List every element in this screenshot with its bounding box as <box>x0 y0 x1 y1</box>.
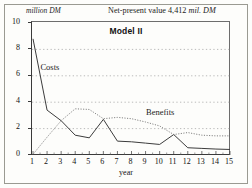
series-layer <box>33 39 230 155</box>
x-tick-label: 5 <box>81 157 95 166</box>
y-tick-label: 2 <box>2 122 20 131</box>
y-tick-label: 10 <box>2 17 20 26</box>
x-tick-label: 15 <box>222 157 236 166</box>
y-tick-label: 0 <box>2 149 20 158</box>
series-line-benefits <box>33 109 230 155</box>
y-tick-mark <box>28 75 31 76</box>
x-tick-label: 2 <box>39 157 53 166</box>
y-tick-mark <box>28 101 31 102</box>
x-tick-label: 14 <box>208 157 222 166</box>
x-tick-label: 4 <box>67 157 81 166</box>
minor-x-ticks <box>33 151 230 155</box>
costs-series-label: Costs <box>40 62 59 72</box>
y-tick-label: 8 <box>2 43 20 52</box>
y-tick-mark <box>28 128 31 129</box>
y-axis-unit-label: million DM <box>26 6 61 15</box>
plot-area <box>31 21 230 155</box>
y-tick-mark <box>28 22 31 23</box>
x-tick-label: 3 <box>53 157 67 166</box>
net-present-value-title: Net-present value 4,412 mil. DM <box>108 6 216 15</box>
x-tick-label: 6 <box>95 157 109 166</box>
benefits-series-label: Benefits <box>146 107 174 117</box>
npv-unit: mil. DM <box>188 6 215 15</box>
x-tick-label: 9 <box>138 157 152 166</box>
y-tick-label: 6 <box>2 69 20 78</box>
y-tick-label: 4 <box>2 96 20 105</box>
x-tick-label: 1 <box>25 157 39 166</box>
x-tick-label: 7 <box>109 157 123 166</box>
npv-text: Net-present value 4,412 <box>108 6 188 15</box>
chart-figure: million DM Net-present value 4,412 mil. … <box>0 0 252 188</box>
gridlines <box>32 49 231 128</box>
x-tick-label: 13 <box>194 157 208 166</box>
series-line-costs <box>33 39 230 150</box>
x-tick-label: 11 <box>166 157 180 166</box>
y-tick-mark <box>28 154 31 155</box>
x-tick-label: 12 <box>180 157 194 166</box>
x-axis-title: year <box>0 168 252 177</box>
x-tick-label: 8 <box>124 157 138 166</box>
plot-canvas <box>32 22 231 156</box>
x-tick-label: 10 <box>152 157 166 166</box>
y-tick-mark <box>28 48 31 49</box>
